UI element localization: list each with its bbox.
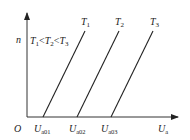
label-t1: T1 <box>81 16 91 29</box>
label-ua02: Ua02 <box>69 123 86 135</box>
label-ua03: Ua03 <box>101 123 118 135</box>
label-t3: T3 <box>150 16 160 29</box>
line-t2 <box>77 31 119 117</box>
characteristic-diagram: n T1<T2<T3 T1 T2 T3 O Ua01 Ua02 Ua03 Ua <box>0 0 190 140</box>
line-t3 <box>111 31 153 117</box>
condition-text: T1<T2<T3 <box>30 35 69 48</box>
x-axis-label: Ua <box>158 123 168 135</box>
label-t2: T2 <box>115 16 125 29</box>
origin-label: O <box>14 123 21 134</box>
label-ua01: Ua01 <box>34 123 51 135</box>
y-axis-label: n <box>16 34 21 45</box>
